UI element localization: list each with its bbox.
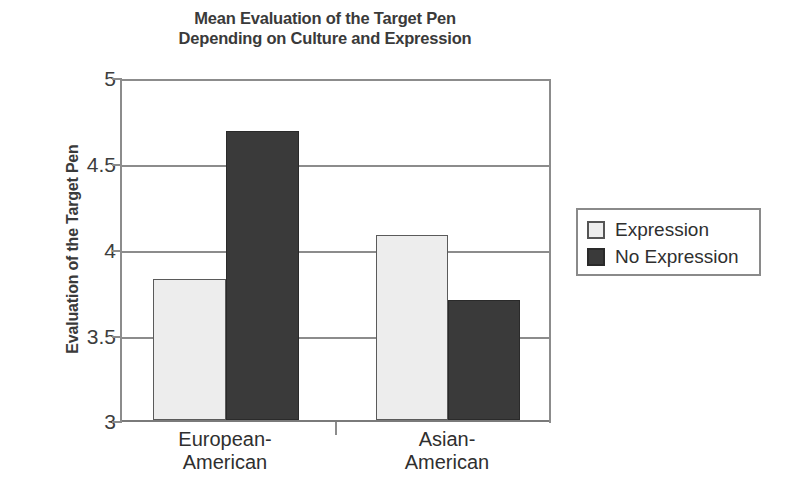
x-category-label-european-american-line-2: American [150, 451, 300, 474]
y-tick-label-4-5: 4.5 [46, 154, 116, 175]
legend-label-expression: Expression [615, 220, 709, 239]
x-axis-category-separator [335, 422, 337, 435]
bar-asian-american-expression[interactable] [376, 235, 448, 420]
legend: Expression No Expression [576, 208, 761, 276]
x-category-label-asian-american-line-2: American [372, 451, 522, 474]
y-tick-label-3-5: 3.5 [46, 326, 116, 347]
x-category-label-european-american-line-1: European- [150, 428, 300, 451]
bar-european-american-no-expression[interactable] [226, 131, 299, 420]
legend-item-no-expression[interactable]: No Expression [587, 243, 759, 270]
y-tick-label-5: 5 [46, 68, 116, 89]
legend-item-expression[interactable]: Expression [587, 216, 759, 243]
gridline-4-5 [122, 165, 549, 167]
x-axis-left-end-tick [120, 410, 122, 423]
legend-swatch-no-expression-icon [587, 248, 605, 266]
x-category-label-asian-american-line-1: Asian- [372, 428, 522, 451]
legend-label-no-expression: No Expression [615, 247, 739, 266]
y-tick-label-4: 4 [46, 240, 116, 261]
chart-title: Mean Evaluation of the Target Pen Depend… [90, 8, 560, 48]
gridline-4 [122, 251, 549, 253]
legend-swatch-expression-icon [587, 221, 605, 239]
x-axis-right-end-tick [549, 410, 551, 423]
plot-area [120, 79, 551, 422]
bar-asian-american-no-expression[interactable] [448, 300, 520, 420]
chart-title-line-1: Mean Evaluation of the Target Pen [90, 8, 560, 28]
x-category-label-european-american: European- American [150, 428, 300, 474]
x-category-label-asian-american: Asian- American [372, 428, 522, 474]
chart-title-line-2: Depending on Culture and Expression [90, 28, 560, 48]
y-tick-label-3: 3 [46, 411, 116, 432]
bar-european-american-expression[interactable] [153, 279, 226, 420]
